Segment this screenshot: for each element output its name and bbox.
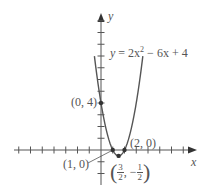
vertex-close-paren: ) — [143, 161, 150, 183]
x-axis-arrow-icon — [188, 147, 197, 154]
vertex-y-denominator: 2 — [138, 173, 143, 182]
labeled-points — [99, 101, 127, 158]
data-point — [99, 101, 103, 105]
vertex-open-paren: ( — [110, 161, 117, 183]
parabola-plot — [0, 0, 210, 196]
vertex-x-denominator: 2 — [118, 173, 123, 182]
equation-label: y = 2x2 − 6x + 4 — [110, 46, 188, 59]
x-axis-label: x — [191, 156, 196, 168]
equation-rhs: = 2x — [115, 46, 140, 60]
data-point — [111, 148, 115, 152]
y-axis-label: y — [108, 10, 113, 22]
equation-tail: − 6x + 4 — [144, 46, 188, 60]
vertex-label: ( 3 2 , − 1 2 ) — [110, 161, 150, 183]
point-label-1-0: (1, 0) — [63, 158, 89, 170]
vertex-separator: , − — [124, 166, 137, 178]
data-point — [116, 154, 120, 158]
point-label-0-4: (0, 4) — [71, 96, 97, 108]
point-label-2-0: (2, 0) — [130, 137, 156, 149]
leader-line-1-0 — [88, 151, 111, 163]
data-point — [122, 148, 126, 152]
